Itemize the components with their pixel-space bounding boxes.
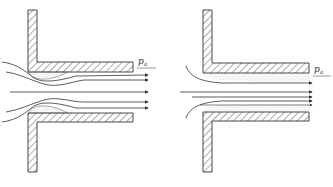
left-figure: pa: [2, 10, 156, 172]
diagram-canvas: pa pa: [0, 0, 333, 187]
left-wall-lower: [28, 113, 133, 172]
right-figure: pa: [180, 10, 331, 172]
left-pressure-label: pa: [138, 56, 148, 67]
right-boundary-layer-upper: [204, 73, 310, 82]
left-wall-upper: [28, 10, 133, 72]
right-pressure-label: pa: [314, 64, 324, 75]
left-separation-bubble-lower: [29, 106, 68, 113]
right-wall-lower: [203, 112, 309, 172]
right-wall-upper: [203, 10, 309, 73]
